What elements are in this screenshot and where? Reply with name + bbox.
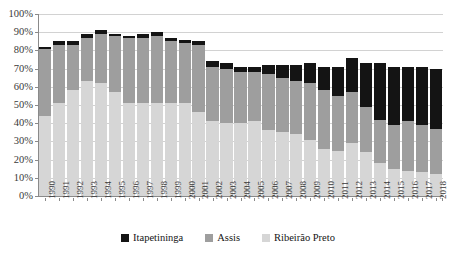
legend-label: Itapetininga bbox=[133, 233, 183, 244]
bar-column[interactable] bbox=[248, 14, 260, 196]
bar-segment-assis bbox=[262, 74, 274, 130]
bar-segment-assis bbox=[81, 38, 93, 82]
bar-column[interactable] bbox=[388, 14, 400, 196]
x-axis-tick-label: 1993 bbox=[90, 181, 99, 199]
bar-column[interactable] bbox=[346, 14, 358, 196]
x-axis-tick-label: 2014 bbox=[383, 181, 392, 199]
legend-item[interactable]: Assis bbox=[205, 233, 240, 244]
y-axis-tick-label: 100% bbox=[0, 9, 33, 20]
legend-swatch-icon bbox=[262, 234, 270, 242]
y-axis-tick-label: 60% bbox=[0, 82, 33, 93]
bar-series-area bbox=[38, 14, 443, 196]
bar-column[interactable] bbox=[39, 14, 51, 196]
legend-item[interactable]: Ribeirão Preto bbox=[262, 233, 335, 244]
bar-segment-assis bbox=[402, 121, 414, 170]
x-axis-tick-mark bbox=[442, 198, 443, 201]
x-axis-tick-mark bbox=[213, 198, 214, 201]
x-axis-tick-label: 2010 bbox=[327, 181, 336, 199]
bar-column[interactable] bbox=[374, 14, 386, 196]
x-axis-tick-mark bbox=[282, 198, 283, 201]
bar-column[interactable] bbox=[416, 14, 428, 196]
x-axis-tick-mark bbox=[185, 198, 186, 201]
x-axis-tick-label: 2015 bbox=[397, 181, 406, 199]
y-axis-tick-label: 40% bbox=[0, 118, 33, 129]
y-axis-tick-label: 50% bbox=[0, 100, 33, 111]
bar-column[interactable] bbox=[220, 14, 232, 196]
bar-segment-itapetininga bbox=[388, 67, 400, 125]
bar-column[interactable] bbox=[53, 14, 65, 196]
bar-column[interactable] bbox=[332, 14, 344, 196]
x-axis-tick-mark bbox=[408, 198, 409, 201]
legend-item[interactable]: Itapetininga bbox=[121, 233, 183, 244]
x-axis-tick-label: 2011 bbox=[341, 181, 350, 199]
bar-column[interactable] bbox=[165, 14, 177, 196]
bar-segment-itapetininga bbox=[123, 36, 135, 38]
bar-segment-itapetininga bbox=[151, 32, 163, 36]
bar-segment-assis bbox=[109, 36, 121, 92]
bar-segment-itapetininga bbox=[109, 34, 121, 36]
bar-segment-itapetininga bbox=[332, 67, 344, 96]
y-axis-tick-label: 0% bbox=[0, 191, 33, 202]
bar-column[interactable] bbox=[318, 14, 330, 196]
x-axis-tick-label: 1998 bbox=[160, 181, 169, 199]
bar-segment-ribeir-o-preto bbox=[95, 83, 107, 196]
x-axis-tick-mark bbox=[59, 198, 60, 201]
x-axis-tick-mark bbox=[394, 198, 395, 201]
bar-column[interactable] bbox=[430, 14, 442, 196]
bar-column[interactable] bbox=[290, 14, 302, 196]
x-axis-tick-label: 2000 bbox=[188, 181, 197, 199]
x-axis-tick-mark bbox=[171, 198, 172, 201]
bar-segment-itapetininga bbox=[430, 69, 442, 129]
bar-column[interactable] bbox=[123, 14, 135, 196]
bar-column[interactable] bbox=[151, 14, 163, 196]
bar-column[interactable] bbox=[360, 14, 372, 196]
bar-segment-itapetininga bbox=[248, 67, 260, 72]
chart-legend: ItapetiningaAssisRibeirão Preto bbox=[0, 233, 456, 244]
x-axis-tick-label: 1995 bbox=[118, 181, 127, 199]
bar-column[interactable] bbox=[179, 14, 191, 196]
bar-segment-itapetininga bbox=[39, 47, 51, 49]
bar-segment-assis bbox=[151, 36, 163, 103]
legend-label: Ribeirão Preto bbox=[274, 233, 335, 244]
bar-segment-itapetininga bbox=[304, 63, 316, 83]
bar-segment-itapetininga bbox=[402, 67, 414, 122]
bar-segment-itapetininga bbox=[318, 67, 330, 91]
bar-segment-assis bbox=[276, 78, 288, 133]
x-axis-tick-mark bbox=[352, 198, 353, 201]
bar-column[interactable] bbox=[276, 14, 288, 196]
bar-segment-itapetininga bbox=[53, 41, 65, 45]
bar-column[interactable] bbox=[192, 14, 204, 196]
bar-column[interactable] bbox=[67, 14, 79, 196]
bar-column[interactable] bbox=[234, 14, 246, 196]
x-axis-tick-mark bbox=[296, 198, 297, 201]
bar-segment-itapetininga bbox=[416, 67, 428, 125]
y-axis-tick-label: 70% bbox=[0, 64, 33, 75]
bar-column[interactable] bbox=[304, 14, 316, 196]
bar-segment-itapetininga bbox=[276, 65, 288, 78]
x-axis-tick-mark bbox=[241, 198, 242, 201]
x-axis-tick-mark bbox=[129, 198, 130, 201]
y-axis-tick-label: 20% bbox=[0, 155, 33, 166]
bar-segment-itapetininga bbox=[290, 65, 302, 81]
x-axis-tick-mark bbox=[338, 198, 339, 201]
x-axis-tick-label: 2016 bbox=[411, 181, 420, 199]
bar-segment-assis bbox=[95, 34, 107, 83]
bar-segment-assis bbox=[332, 96, 344, 151]
bar-segment-itapetininga bbox=[220, 63, 232, 68]
bar-column[interactable] bbox=[81, 14, 93, 196]
bar-column[interactable] bbox=[262, 14, 274, 196]
y-axis-tick-label: 90% bbox=[0, 27, 33, 38]
x-axis-tick-label: 2012 bbox=[355, 181, 364, 199]
bar-column[interactable] bbox=[109, 14, 121, 196]
bar-column[interactable] bbox=[95, 14, 107, 196]
bar-segment-assis bbox=[416, 125, 428, 172]
x-axis-tick-label: 2009 bbox=[313, 181, 322, 199]
x-axis-tick-mark bbox=[268, 198, 269, 201]
bar-segment-assis bbox=[53, 45, 65, 103]
bar-segment-itapetininga bbox=[179, 40, 191, 44]
bar-column[interactable] bbox=[206, 14, 218, 196]
bar-column[interactable] bbox=[402, 14, 414, 196]
bar-segment-assis bbox=[318, 90, 330, 148]
bar-column[interactable] bbox=[137, 14, 149, 196]
x-axis-tick-mark bbox=[324, 198, 325, 201]
